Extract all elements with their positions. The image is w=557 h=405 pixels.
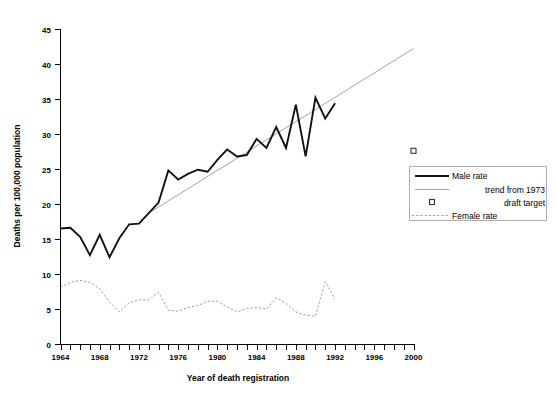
chart-container: 051015202530354045 196419681972197619801… xyxy=(0,0,557,405)
x-tick-label: 1988 xyxy=(287,353,305,362)
trend-line-series xyxy=(149,49,414,214)
y-tick-label: 20 xyxy=(42,201,51,210)
y-tick-label: 45 xyxy=(42,26,51,35)
y-axis-ticks xyxy=(55,30,61,345)
draft-target-marker xyxy=(411,148,416,153)
x-axis-title: Year of death registration xyxy=(187,373,290,383)
y-tick-label: 40 xyxy=(42,61,51,70)
y-tick-label: 0 xyxy=(47,341,52,350)
x-tick-label: 1980 xyxy=(208,353,226,362)
line-chart: 051015202530354045 196419681972197619801… xyxy=(0,0,557,405)
y-tick-label: 10 xyxy=(42,271,51,280)
x-tick-label: 1976 xyxy=(169,353,187,362)
y-axis-tick-labels: 051015202530354045 xyxy=(42,26,51,350)
x-tick-label: 1996 xyxy=(365,353,383,362)
y-tick-label: 30 xyxy=(42,131,51,140)
legend-label-trend: trend from 1973 xyxy=(485,185,545,195)
x-tick-label: 1984 xyxy=(248,353,266,362)
y-tick-label: 15 xyxy=(42,236,51,245)
x-axis-ticks xyxy=(62,345,415,350)
x-tick-label: 1968 xyxy=(91,353,109,362)
female-rate-series xyxy=(61,280,336,316)
y-axis-title: Deaths per 100,000 population xyxy=(12,125,22,248)
x-tick-label: 1972 xyxy=(130,353,148,362)
male-rate-series xyxy=(61,98,336,258)
y-tick-label: 35 xyxy=(42,96,51,105)
x-tick-label: 1992 xyxy=(326,353,344,362)
x-tick-label: 1964 xyxy=(52,353,70,362)
legend-label-female-rate: Female rate xyxy=(452,211,498,221)
legend: Male rate trend from 1973 draft target F… xyxy=(410,167,547,221)
x-axis-tick-labels: 1964196819721976198019841988199219962000 xyxy=(52,353,423,362)
legend-label-male-rate: Male rate xyxy=(452,171,488,181)
y-tick-label: 5 xyxy=(47,306,52,315)
x-tick-label: 2000 xyxy=(405,353,423,362)
legend-label-draft-target: draft target xyxy=(504,198,546,208)
y-tick-label: 25 xyxy=(42,166,51,175)
legend-swatch-draft-target xyxy=(430,200,435,205)
